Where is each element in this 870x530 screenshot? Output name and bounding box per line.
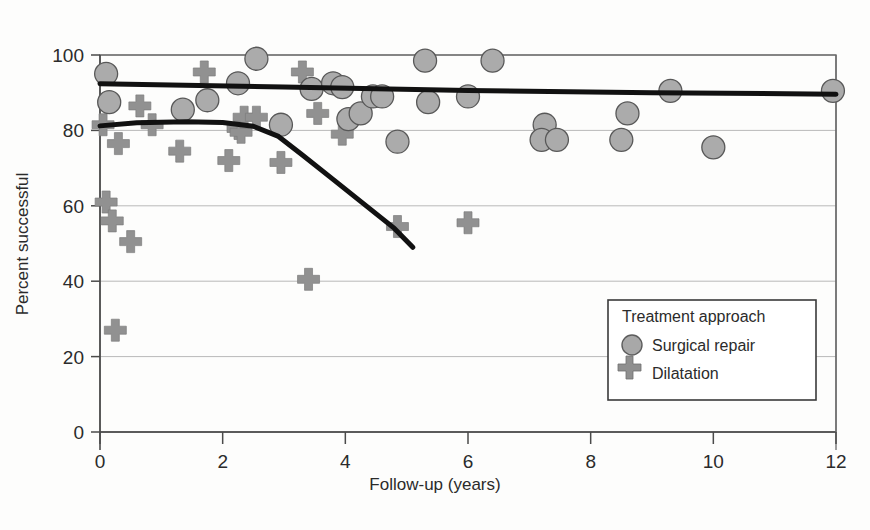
data-point-surgical (196, 89, 219, 112)
data-point-surgical (386, 130, 409, 153)
data-point-surgical (481, 49, 504, 72)
data-point-dilatation (120, 231, 142, 253)
data-point-surgical (821, 79, 844, 102)
data-point-dilatation (298, 268, 320, 290)
y-tick-label: 40 (63, 271, 84, 292)
data-point-dilatation (193, 61, 215, 83)
data-point-surgical (616, 102, 639, 125)
x-tick-label: 0 (95, 451, 106, 472)
dilatation-trend (100, 122, 413, 248)
data-point-dilatation (270, 151, 292, 173)
legend-label-dilatation: Dilatation (652, 365, 719, 382)
legend-box: Treatment approach Surgical repair Dilat… (608, 300, 816, 400)
x-tick-label: 12 (825, 451, 846, 472)
legend-title: Treatment approach (622, 308, 765, 325)
y-tick-label: 100 (52, 45, 84, 66)
data-point-surgical (610, 128, 633, 151)
y-tick-label: 80 (63, 120, 84, 141)
data-point-surgical (98, 91, 121, 114)
data-point-surgical (417, 91, 440, 114)
legend-circle-icon (622, 335, 642, 355)
x-axis-title: Follow-up (years) (369, 475, 500, 494)
data-point-dilatation (107, 133, 129, 155)
data-point-surgical (545, 128, 568, 151)
x-tick-label: 4 (340, 451, 351, 472)
y-axis-title: Percent successful (13, 173, 32, 316)
x-tick-label: 8 (585, 451, 596, 472)
legend-label-surgical: Surgical repair (652, 337, 756, 354)
data-point-dilatation (104, 319, 126, 341)
data-point-surgical (414, 49, 437, 72)
chart-figure: 020406080100024681012 Follow-up (years) … (0, 0, 870, 530)
y-tick-label: 0 (73, 422, 84, 443)
data-point-surgical (227, 72, 250, 95)
y-tick-label: 20 (63, 347, 84, 368)
data-point-dilatation (307, 102, 329, 124)
x-tick-label: 10 (703, 451, 724, 472)
data-point-dilatation (457, 212, 479, 234)
y-tick-label: 60 (63, 196, 84, 217)
data-point-surgical (702, 136, 725, 159)
data-point-dilatation (218, 150, 240, 172)
data-point-dilatation (169, 140, 191, 162)
x-tick-label: 2 (217, 451, 228, 472)
data-point-surgical (245, 47, 268, 70)
x-tick-label: 6 (463, 451, 474, 472)
data-point-dilatation (129, 95, 151, 117)
data-point-surgical (171, 98, 194, 121)
scatter-plot-canvas: 020406080100024681012 Follow-up (years) … (0, 0, 870, 530)
